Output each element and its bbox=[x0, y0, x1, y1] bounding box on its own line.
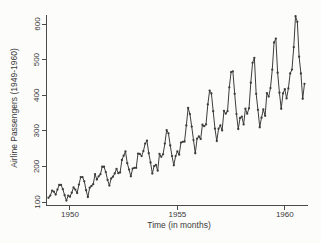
data-point-marker bbox=[112, 176, 114, 178]
data-point-marker bbox=[217, 128, 219, 130]
data-point-marker bbox=[49, 194, 51, 196]
data-point-marker bbox=[244, 108, 246, 110]
data-point-marker bbox=[146, 140, 148, 142]
data-point-marker bbox=[121, 159, 123, 161]
data-point-marker bbox=[194, 152, 196, 154]
data-point-marker bbox=[237, 128, 239, 130]
data-point-marker bbox=[250, 82, 252, 84]
data-point-marker bbox=[92, 183, 94, 185]
data-point-marker bbox=[96, 178, 98, 180]
data-point-marker bbox=[140, 155, 142, 157]
data-point-marker bbox=[65, 199, 67, 201]
plot-background bbox=[0, 0, 321, 243]
data-point-marker bbox=[198, 135, 200, 137]
data-point-marker bbox=[72, 186, 74, 188]
data-point-marker bbox=[83, 180, 85, 182]
data-point-marker bbox=[232, 70, 234, 72]
data-point-marker bbox=[303, 83, 305, 85]
data-point-marker bbox=[219, 124, 221, 126]
data-point-marker bbox=[158, 153, 160, 155]
y-tick-label: 100 bbox=[33, 195, 42, 209]
data-point-marker bbox=[275, 37, 277, 39]
data-point-marker bbox=[260, 116, 262, 118]
data-point-marker bbox=[214, 128, 216, 130]
y-tick-label: 400 bbox=[33, 88, 42, 102]
data-point-marker bbox=[191, 125, 193, 127]
data-point-marker bbox=[207, 103, 209, 105]
data-point-marker bbox=[157, 170, 159, 172]
data-point-marker bbox=[285, 97, 287, 99]
data-point-marker bbox=[135, 167, 137, 169]
data-point-marker bbox=[63, 194, 65, 196]
data-point-marker bbox=[60, 184, 62, 186]
data-point-marker bbox=[196, 137, 198, 139]
data-point-marker bbox=[280, 108, 282, 110]
data-point-marker bbox=[167, 132, 169, 134]
data-point-marker bbox=[203, 125, 205, 127]
airline-passengers-figure: 100200300400500600195019551960 Airline P… bbox=[0, 0, 321, 243]
y-axis-title: Airline Passengers (1949-1960) bbox=[9, 48, 19, 168]
data-point-marker bbox=[173, 164, 175, 166]
data-point-marker bbox=[185, 124, 187, 126]
data-point-marker bbox=[142, 150, 144, 152]
data-point-marker bbox=[248, 107, 250, 109]
data-point-marker bbox=[114, 172, 116, 174]
data-point-marker bbox=[90, 185, 92, 187]
x-tick-label: 1955 bbox=[168, 210, 186, 219]
data-point-marker bbox=[94, 173, 96, 175]
data-point-marker bbox=[124, 150, 126, 152]
data-point-marker bbox=[284, 88, 286, 90]
data-point-marker bbox=[291, 68, 293, 70]
data-point-marker bbox=[71, 192, 73, 194]
data-point-marker bbox=[246, 113, 248, 115]
y-tick-label: 600 bbox=[33, 17, 42, 31]
data-point-marker bbox=[164, 142, 166, 144]
data-point-marker bbox=[99, 173, 101, 175]
data-point-marker bbox=[200, 138, 202, 140]
data-point-marker bbox=[241, 115, 243, 117]
data-point-marker bbox=[155, 164, 157, 166]
data-point-marker bbox=[126, 162, 128, 164]
data-point-marker bbox=[103, 166, 105, 168]
y-tick-label: 200 bbox=[33, 159, 42, 173]
data-point-marker bbox=[183, 140, 185, 142]
x-axis-title: Time (in months) bbox=[147, 220, 211, 230]
data-point-marker bbox=[151, 172, 153, 174]
data-point-marker bbox=[105, 171, 107, 173]
data-point-marker bbox=[85, 189, 87, 191]
data-point-marker bbox=[139, 153, 141, 155]
data-point-marker bbox=[192, 139, 194, 141]
data-point-marker bbox=[53, 191, 55, 193]
data-point-marker bbox=[130, 175, 132, 177]
data-point-marker bbox=[178, 154, 180, 156]
data-point-marker bbox=[289, 72, 291, 74]
x-tick-label: 1950 bbox=[61, 210, 79, 219]
data-point-marker bbox=[253, 57, 255, 59]
data-point-marker bbox=[208, 89, 210, 91]
data-point-marker bbox=[212, 110, 214, 112]
data-point-marker bbox=[262, 108, 264, 110]
data-point-marker bbox=[55, 193, 57, 195]
data-point-marker bbox=[257, 109, 259, 111]
data-point-marker bbox=[210, 92, 212, 94]
data-point-marker bbox=[76, 192, 78, 194]
data-point-marker bbox=[216, 140, 218, 142]
data-point-marker bbox=[271, 68, 273, 70]
y-tick-label: 300 bbox=[33, 124, 42, 138]
data-point-marker bbox=[298, 56, 300, 58]
data-point-marker bbox=[128, 168, 130, 170]
data-point-marker bbox=[78, 183, 80, 185]
data-point-marker bbox=[225, 113, 227, 115]
data-point-marker bbox=[282, 92, 284, 94]
data-point-marker bbox=[89, 187, 91, 189]
data-point-marker bbox=[276, 72, 278, 74]
data-point-marker bbox=[119, 171, 121, 173]
data-point-marker bbox=[174, 155, 176, 157]
data-point-marker bbox=[87, 196, 89, 198]
data-point-marker bbox=[287, 87, 289, 89]
data-point-marker bbox=[239, 117, 241, 119]
data-point-marker bbox=[296, 21, 298, 23]
data-point-marker bbox=[223, 110, 225, 112]
data-point-marker bbox=[221, 129, 223, 131]
data-point-marker bbox=[234, 93, 236, 95]
